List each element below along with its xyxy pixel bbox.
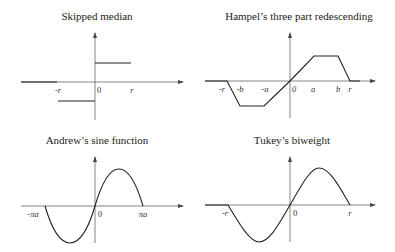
panel-tukey-biweight bbox=[205, 157, 375, 242]
tick-label-neg-b: -b bbox=[236, 84, 243, 94]
panel-skipped-median bbox=[21, 33, 183, 120]
tick-label-neg-pi-a: -πa bbox=[27, 209, 38, 219]
tick-label-neg-r: -r bbox=[219, 84, 225, 94]
tick-label-zero: 0 bbox=[98, 209, 102, 219]
tick-label-r: r bbox=[348, 208, 351, 218]
tick-label-neg-r: -r bbox=[222, 208, 228, 218]
tick-label-zero: 0 bbox=[292, 84, 296, 94]
tick-label-r: r bbox=[130, 85, 133, 95]
tick-label-zero: 0 bbox=[97, 85, 101, 95]
panel-andrews-sine bbox=[21, 157, 183, 243]
tick-label-pi-a: πa bbox=[139, 209, 148, 219]
tick-label-r: r bbox=[348, 84, 351, 94]
tick-label-zero: 0 bbox=[293, 208, 297, 218]
tick-label-neg-r: -r bbox=[55, 85, 61, 95]
tick-label-neg-a: -a bbox=[261, 84, 268, 94]
tick-label-b: b bbox=[336, 84, 340, 94]
psi-function-plots bbox=[0, 0, 395, 252]
panel-hampel bbox=[205, 33, 375, 118]
tick-label-a: a bbox=[311, 84, 315, 94]
